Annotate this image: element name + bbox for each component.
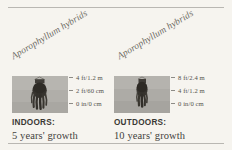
scale-tick-middle-outdoors: 4 ft/1.2 m <box>170 85 228 95</box>
hanging-cactus-illustration <box>114 76 170 113</box>
tick-dash-icon <box>69 77 73 78</box>
scale-tick-top-outdoors: 8 ft/2.4 m <box>170 72 228 82</box>
species-label-wrap-indoors: Aporophyllum hybrids <box>10 12 114 74</box>
scale-tick-label: 4 ft/1.2 m <box>76 74 103 81</box>
scale-tick-bottom-outdoors: 0 in/0 cm <box>170 98 228 108</box>
scale-tick-label: 4 ft/1.2 m <box>178 87 205 94</box>
tick-dash-icon <box>171 77 175 78</box>
tick-dash-icon <box>171 103 175 104</box>
tick-dash-icon <box>69 103 73 104</box>
growth-comparison-figure: Aporophyllum hybrids <box>0 0 232 150</box>
hanging-cactus-illustration <box>12 76 68 113</box>
panel-outdoors: Aporophyllum hybrids <box>112 12 228 140</box>
scale-outdoors: 8 ft/2.4 m 4 ft/1.2 m 0 in/0 cm <box>170 76 228 113</box>
caption-outdoors: OUTDOORS: 10 years' growth <box>114 117 224 142</box>
tick-dash-icon <box>69 90 73 91</box>
species-label-wrap-outdoors: Aporophyllum hybrids <box>112 12 216 74</box>
scale-tick-label: 8 ft/2.4 m <box>178 74 205 81</box>
plant-photo-indoors <box>12 76 68 113</box>
caption-heading-outdoors: OUTDOORS: <box>114 117 224 128</box>
caption-indoors: INDOORS: 5 years' growth <box>12 117 122 142</box>
top-divider-rule <box>8 7 224 8</box>
panel-indoors: Aporophyllum hybrids <box>10 12 114 140</box>
caption-subtext-indoors: 5 years' growth <box>12 129 122 142</box>
scale-tick-label: 2 ft/60 cm <box>76 87 104 94</box>
plot-row-indoors: 4 ft/1.2 m 2 ft/60 cm 0 in/0 cm <box>12 76 120 113</box>
bottom-divider-rule <box>8 143 224 144</box>
species-label-outdoors: Aporophyllum hybrids <box>115 8 195 61</box>
scale-tick-label: 0 in/0 cm <box>76 100 102 107</box>
plant-photo-outdoors <box>114 76 170 113</box>
plot-row-outdoors: 8 ft/2.4 m 4 ft/1.2 m 0 in/0 cm <box>114 76 228 113</box>
caption-heading-indoors: INDOORS: <box>12 117 122 128</box>
species-label-indoors: Aporophyllum hybrids <box>9 8 89 61</box>
caption-subtext-outdoors: 10 years' growth <box>114 129 224 142</box>
tick-dash-icon <box>171 90 175 91</box>
scale-tick-label: 0 in/0 cm <box>178 100 204 107</box>
